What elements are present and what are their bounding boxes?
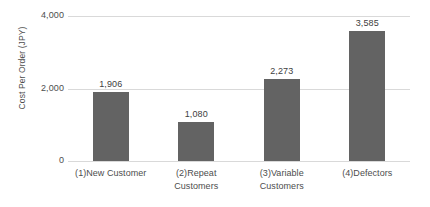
- x-axis-category-labels: (1)New Customer (2)Repeat Customers (3)V…: [68, 164, 410, 207]
- bar-value-label: 3,585: [337, 18, 397, 28]
- bar-variable-customers[interactable]: [264, 79, 300, 161]
- bars-layer: 1,906 1,080 2,273 3,585: [68, 16, 410, 161]
- bar-repeat-customers[interactable]: [178, 122, 214, 161]
- plot-area: 1,906 1,080 2,273 3,585: [68, 16, 410, 161]
- bar-value-label: 1,906: [81, 79, 141, 89]
- y-axis-tick-labels: 4,000 2,000 0: [18, 0, 64, 207]
- x-tick-label-repeat-customers: (2)Repeat Customers: [158, 167, 236, 192]
- bar-defectors[interactable]: [349, 31, 385, 161]
- bar-new-customer[interactable]: [93, 92, 129, 161]
- y-tick-label: 4,000: [20, 10, 64, 20]
- y-tick-label: 0: [20, 155, 64, 165]
- x-tick-label-defectors: (4)Defectors: [329, 167, 407, 180]
- x-tick-label-variable-customers: (3)Variable Customers: [243, 167, 321, 192]
- gridline-0: [68, 161, 410, 162]
- bar-value-label: 2,273: [252, 66, 312, 76]
- bar-value-label: 1,080: [166, 109, 226, 119]
- y-tick-label: 2,000: [20, 83, 64, 93]
- bar-chart: Cost Per Order (JPY) 4,000 2,000 0 1,906…: [0, 0, 430, 207]
- x-tick-label-new-customer: (1)New Customer: [72, 167, 150, 180]
